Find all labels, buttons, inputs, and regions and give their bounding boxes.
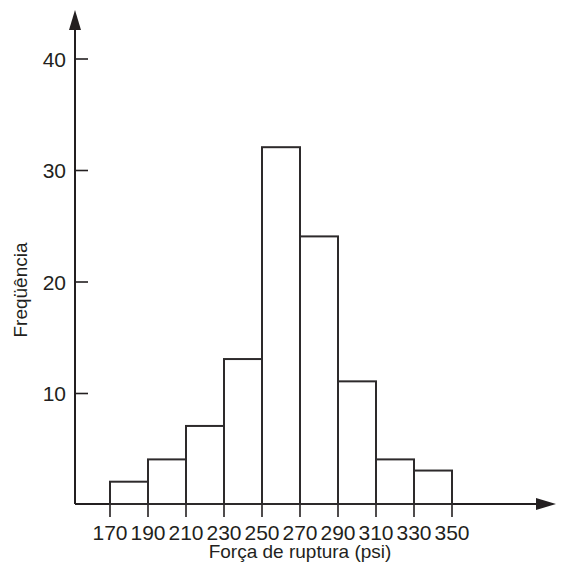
histogram-figure: 10 20 30 40 1701902102302502702903103303… (0, 0, 581, 584)
y-axis-ticks (75, 59, 88, 394)
x-tick-label-350: 350 (434, 521, 469, 544)
y-tick-label-20: 20 (43, 271, 66, 294)
y-axis-title: Freqüência (10, 242, 31, 337)
y-tick-label-10: 10 (43, 382, 66, 405)
bar-210-230 (186, 426, 224, 504)
bar-310-330 (376, 459, 414, 504)
bar-290-310 (338, 381, 376, 504)
bar-190-210 (148, 459, 186, 504)
bar-230-250 (224, 359, 262, 504)
histogram-bars (110, 147, 452, 504)
x-tick-label-210: 210 (168, 521, 203, 544)
x-tick-label-170: 170 (92, 521, 127, 544)
y-axis-arrow-icon (69, 10, 81, 30)
bar-250-270 (262, 147, 300, 504)
chart-canvas: 10 20 30 40 1701902102302502702903103303… (0, 0, 581, 584)
y-tick-label-40: 40 (43, 48, 66, 71)
bar-270-290 (300, 236, 338, 504)
y-axis-tick-labels: 10 20 30 40 (43, 48, 66, 406)
x-axis-ticks (110, 504, 452, 517)
bar-330-350 (414, 471, 452, 504)
x-axis-title: Força de ruptura (psi) (209, 541, 392, 562)
x-axis-arrow-icon (536, 498, 556, 510)
y-tick-label-30: 30 (43, 159, 66, 182)
bar-170-190 (110, 482, 148, 504)
x-tick-label-330: 330 (396, 521, 431, 544)
x-tick-label-190: 190 (130, 521, 165, 544)
